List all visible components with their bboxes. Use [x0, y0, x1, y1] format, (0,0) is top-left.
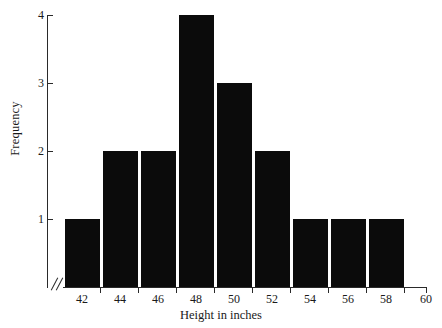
x-tick-48 — [214, 288, 215, 293]
axis-break-icon — [49, 278, 67, 290]
x-tick-label-60: 60 — [414, 292, 438, 306]
x-tick-label-42: 42 — [70, 292, 94, 306]
x-tick-42 — [100, 288, 101, 293]
bar-52 — [255, 151, 290, 287]
x-tick-label-54: 54 — [298, 292, 322, 306]
y-tick-label-2: 2 — [30, 145, 44, 157]
histogram-figure: 1 2 3 4 42 44 46 48 50 52 54 56 58 60 He… — [0, 0, 442, 328]
bar-54 — [293, 219, 328, 287]
y-tick-label-3: 3 — [30, 77, 44, 89]
x-tick-54 — [328, 288, 329, 293]
bar-58 — [369, 219, 404, 287]
bar-42 — [65, 219, 100, 287]
y-tick-label-4: 4 — [30, 9, 44, 21]
bar-46 — [141, 151, 176, 287]
x-tick-label-52: 52 — [260, 292, 284, 306]
x-tick-52 — [290, 288, 291, 293]
x-tick-label-44: 44 — [108, 292, 132, 306]
y-axis-label: Frequency — [8, 84, 23, 174]
bar-48 — [179, 15, 214, 287]
y-tick-2 — [48, 151, 53, 152]
x-tick-56 — [366, 288, 367, 293]
x-tick-label-58: 58 — [374, 292, 398, 306]
x-tick-46 — [176, 288, 177, 293]
y-tick-1 — [48, 219, 53, 220]
y-tick-3 — [48, 83, 53, 84]
x-tick-50 — [252, 288, 253, 293]
x-tick-label-56: 56 — [336, 292, 360, 306]
x-axis-line — [47, 287, 427, 288]
x-axis-label: Height in inches — [0, 308, 442, 323]
plot-area: 1 2 3 4 42 44 46 48 50 52 54 56 58 60 — [0, 0, 442, 328]
x-tick-label-46: 46 — [146, 292, 170, 306]
bar-56 — [331, 219, 366, 287]
y-tick-label-1: 1 — [30, 213, 44, 225]
x-tick-label-50: 50 — [222, 292, 246, 306]
bar-44 — [103, 151, 138, 287]
x-tick-44 — [138, 288, 139, 293]
y-tick-4 — [48, 15, 53, 16]
x-tick-label-48: 48 — [184, 292, 208, 306]
bar-50 — [217, 83, 252, 287]
x-tick-58 — [404, 288, 405, 293]
